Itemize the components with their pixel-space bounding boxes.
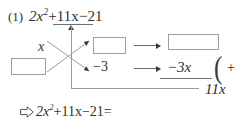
factor-top-left-label: x	[38, 40, 44, 54]
expression-middle-term: +11x	[48, 8, 79, 24]
right-arrow-icon-bottom	[134, 68, 160, 69]
quadratic-expression: 2x2+11x−21	[29, 8, 103, 24]
math-worksheet-problem: (1) 2x2+11x−21 x −3 −3x ( + 11x	[0, 0, 251, 126]
cross-lines-svg	[46, 38, 92, 74]
product-top-input-box[interactable]	[93, 37, 126, 54]
conclusion-constant-term: −21	[82, 104, 104, 119]
addition-paren-glyph: (	[214, 52, 222, 83]
right-arrow-icon-top	[134, 45, 160, 46]
expression-constant-term: −21	[79, 8, 103, 24]
factor-bottom-left-input-box[interactable]	[11, 58, 46, 75]
hollow-arrow-svg	[20, 106, 34, 118]
bottom-connector-line	[71, 88, 199, 89]
sum-term-label: 11x	[205, 82, 226, 97]
conclusion-expression: 2x2+11x−21=	[36, 103, 112, 119]
factor-bottom-right-label: −3	[93, 60, 108, 74]
conclusion-leading-coefficient: 2	[36, 104, 43, 119]
product-result-input-box[interactable]	[168, 34, 219, 50]
conclusion-equals-sign: =	[104, 104, 112, 119]
hollow-right-arrow-icon	[20, 104, 34, 116]
conclusion-middle-term: +11x	[54, 104, 82, 119]
expression-leading-coefficient: 2	[29, 8, 37, 24]
addition-rule-line	[160, 78, 212, 79]
cross-multiply-diagram	[46, 38, 92, 74]
addition-operator-label: +	[227, 61, 235, 75]
problem-number-label: (1)	[8, 10, 23, 23]
bottom-product-term-label: −3x	[167, 60, 191, 75]
